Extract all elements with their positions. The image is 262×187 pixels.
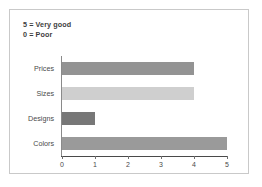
x-tick-mark [62,156,63,159]
bar [62,137,227,150]
x-tick-label: 2 [126,161,130,168]
bar-row: Designs [62,106,227,131]
bar [62,62,194,75]
bar [62,87,194,100]
x-tick-label: 1 [93,161,97,168]
bar-row: Sizes [62,81,227,106]
x-tick-label: 4 [192,161,196,168]
bar [62,112,95,125]
bar-category-label: Prices [34,64,54,73]
x-tick-mark [227,156,228,159]
bar-category-label: Designs [28,114,54,123]
bar-category-label: Sizes [36,89,54,98]
x-tick-mark [161,156,162,159]
bar-row: Prices [62,56,227,81]
annotation-poor: 0 = Poor [23,30,71,40]
annotation-very-good: 5 = Very good [23,20,71,30]
chart-annotations: 5 = Very good 0 = Poor [23,20,71,40]
bar-row: Colors [62,131,227,156]
x-tick-label: 5 [225,161,229,168]
plot-area: 012345 PricesSizesDesignsColors [62,56,227,156]
bar-category-label: Colors [33,139,54,148]
x-tick-mark [95,156,96,159]
x-axis-line [61,156,228,157]
x-tick-mark [194,156,195,159]
x-tick-label: 0 [60,161,64,168]
x-tick-label: 3 [159,161,163,168]
chart-figure: 5 = Very good 0 = Poor 012345 PricesSize… [9,9,249,174]
x-tick-mark [128,156,129,159]
